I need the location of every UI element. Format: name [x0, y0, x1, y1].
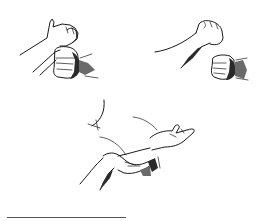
illustration: [0, 0, 257, 221]
panel-bottom-center: [80, 100, 194, 190]
panel-top-right: [155, 21, 248, 80]
hand-techniques-drawing: [0, 0, 257, 221]
panel-top-left: [20, 19, 98, 79]
footnote-divider: [7, 217, 126, 218]
